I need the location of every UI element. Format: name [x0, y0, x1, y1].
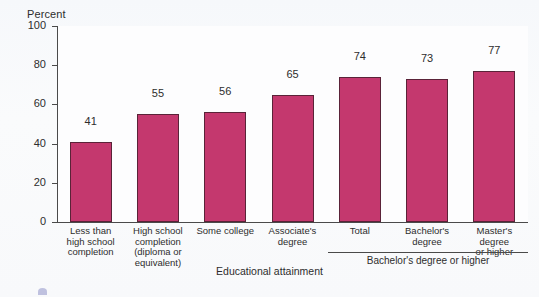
bar-value-label: 55	[137, 87, 179, 99]
category-label-line: Associate's	[259, 226, 326, 237]
group-bracket-line	[328, 252, 528, 253]
y-tick-mark	[52, 104, 57, 105]
y-tick-label: 40	[16, 137, 46, 149]
y-tick-label: 100	[16, 19, 46, 31]
category-label: Master's degreeor higher	[461, 226, 528, 258]
y-tick-label: 20	[16, 176, 46, 188]
plot-area: 41555665747377	[57, 26, 528, 222]
category-label: High schoolcompletion(diploma orequivale…	[124, 226, 191, 268]
y-tick-label: 60	[16, 97, 46, 109]
category-label: Total	[326, 226, 393, 237]
bar-value-label: 73	[406, 52, 448, 64]
y-tick-label: 0	[16, 215, 46, 227]
category-label: Some college	[192, 226, 259, 237]
y-tick-mark	[52, 183, 57, 184]
category-label: Bachelor'sdegree	[393, 226, 460, 247]
category-label-line: Total	[326, 226, 393, 237]
y-tick-label: 80	[16, 58, 46, 70]
y-axis-line	[57, 26, 58, 223]
bar-value-label: 56	[204, 85, 246, 97]
bar-value-label: 41	[70, 115, 112, 127]
bar-value-label: 77	[473, 44, 515, 56]
x-axis-line	[57, 222, 528, 223]
y-tick-mark	[52, 26, 57, 27]
category-label-line: degree	[259, 237, 326, 248]
y-tick-mark	[52, 144, 57, 145]
category-label-line: Master's degree	[461, 226, 528, 247]
x-axis-title: Educational attainment	[0, 265, 539, 277]
category-label-line: Some college	[192, 226, 259, 237]
chart-figure: Percent 41555665747377 020406080100 Less…	[0, 0, 539, 297]
y-tick-mark	[52, 222, 57, 223]
category-label-line: Less than	[57, 226, 124, 237]
bar	[473, 71, 515, 222]
bar	[272, 95, 314, 222]
bar	[406, 79, 448, 222]
category-label-line: Bachelor's	[393, 226, 460, 237]
category-label-line: High school	[124, 226, 191, 237]
category-label-line: degree	[393, 237, 460, 248]
bar	[339, 77, 381, 222]
bar-value-label: 65	[272, 68, 314, 80]
category-label: Associate'sdegree	[259, 226, 326, 247]
category-label-line: completion	[57, 247, 124, 258]
bar-value-label: 74	[339, 50, 381, 62]
bar	[204, 112, 246, 222]
category-label: Less thanhigh schoolcompletion	[57, 226, 124, 258]
bar	[137, 114, 179, 222]
scan-artifact-mark	[38, 288, 47, 295]
bar	[70, 142, 112, 222]
y-tick-mark	[52, 65, 57, 66]
